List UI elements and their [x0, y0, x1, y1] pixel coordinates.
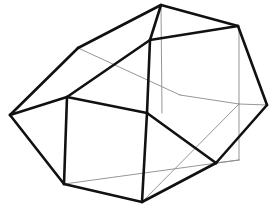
figure-canvas [0, 0, 275, 209]
polyhedron-wireframe [0, 0, 275, 209]
